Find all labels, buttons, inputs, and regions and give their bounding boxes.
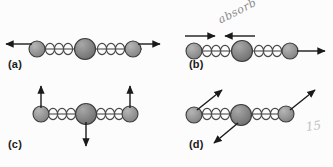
arrow-right-diagonal xyxy=(290,90,315,110)
figure-canvas: (a) xyxy=(0,0,333,167)
atom-center xyxy=(75,39,96,60)
panel-b-diagram xyxy=(167,0,333,83)
panel-label-a: (a) xyxy=(8,58,22,70)
panel-d: 15 (d) xyxy=(167,84,333,167)
panel-a-diagram xyxy=(0,0,166,83)
panel-a: (a) xyxy=(0,0,166,83)
annotation-fifteen: 15 xyxy=(305,118,322,134)
panel-c: (c) xyxy=(0,84,166,167)
panel-b: absorb (b) xyxy=(167,0,333,83)
atom-center xyxy=(231,105,252,126)
atom-left xyxy=(33,106,49,122)
panel-label-d: (d) xyxy=(189,138,204,150)
arrow-left-diagonal xyxy=(197,90,222,110)
panel-c-diagram xyxy=(0,84,166,167)
panel-label-b: (b) xyxy=(189,58,204,70)
atom-left xyxy=(186,107,202,123)
atom-right xyxy=(122,106,138,122)
arrow-center-diagonal xyxy=(214,123,238,143)
atom-left xyxy=(186,43,202,59)
atom-center xyxy=(232,41,253,62)
panel-label-c: (c) xyxy=(8,138,22,150)
atom-right xyxy=(282,43,298,59)
atom-center xyxy=(76,104,97,125)
